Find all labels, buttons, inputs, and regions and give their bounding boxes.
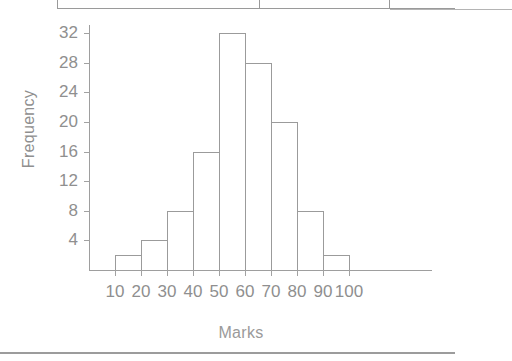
y-axis-tick <box>84 63 90 64</box>
y-axis-tick <box>84 122 90 123</box>
y-axis-tick <box>84 240 90 241</box>
y-axis-tick-label: 12 <box>46 172 78 189</box>
y-axis-tick-label: 24 <box>46 83 78 100</box>
y-axis-tick-label: 4 <box>46 231 78 248</box>
y-axis-tick-label: 16 <box>46 143 78 160</box>
histogram-bar <box>297 211 324 270</box>
y-axis-tick-label: 28 <box>46 54 78 71</box>
histogram-bar <box>323 255 350 270</box>
x-axis-tick-label: 100 <box>332 283 366 300</box>
y-axis-tick-label: 8 <box>46 202 78 219</box>
y-axis-tick-label: 20 <box>46 113 78 130</box>
histogram-bar <box>141 240 168 270</box>
histogram-chart: Frequency Marks 48121620242832 102030405… <box>0 0 455 352</box>
histogram-bar <box>167 211 194 270</box>
y-axis-tick <box>84 152 90 153</box>
histogram-bar <box>271 122 298 270</box>
y-axis-tick <box>84 33 90 34</box>
histogram-bar <box>219 33 246 270</box>
histogram-bar <box>115 255 142 270</box>
y-axis-label: Frequency <box>20 69 38 189</box>
y-axis-tick-label: 32 <box>46 24 78 41</box>
histogram-bar <box>245 63 272 270</box>
y-axis-tick <box>84 211 90 212</box>
page-bottom-rule <box>0 352 455 354</box>
histogram-bar <box>193 152 220 271</box>
y-axis-tick <box>84 92 90 93</box>
y-axis-tick <box>84 181 90 182</box>
x-axis-label: Marks <box>196 324 286 342</box>
